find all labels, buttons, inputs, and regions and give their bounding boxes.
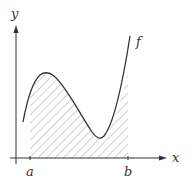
- area-under-curve-diagram: y x f a b: [0, 0, 191, 182]
- upper-bound-label: b: [124, 164, 132, 179]
- lower-bound-label: a: [26, 164, 34, 179]
- x-axis-label: x: [172, 150, 180, 165]
- function-label: f: [135, 34, 143, 49]
- y-axis: [14, 25, 19, 164]
- y-axis-label: y: [10, 6, 19, 21]
